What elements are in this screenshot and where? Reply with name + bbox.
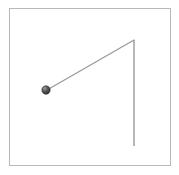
pendulum-bob — [42, 86, 50, 94]
pendulum-bob-highlight — [43, 87, 46, 90]
screenshot-root — [0, 0, 179, 175]
pendulum-string — [47, 40, 134, 90]
pendulum-diagram-canvas — [0, 0, 179, 175]
